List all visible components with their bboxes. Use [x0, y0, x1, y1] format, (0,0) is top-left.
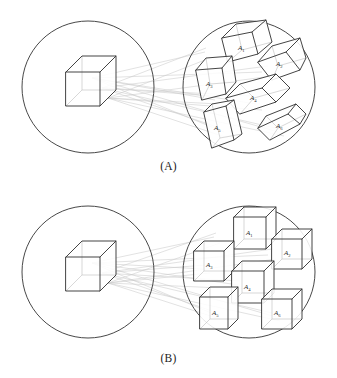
panel-b: A1 A2 A3	[0, 189, 337, 378]
panel-a-graphic: A1 A2 A3	[0, 0, 337, 166]
panel-b-graphic: A1 A2 A3	[0, 189, 337, 355]
target-cube-b2: A2	[272, 229, 312, 269]
target-cube-b3: A3	[194, 241, 234, 281]
source-cube-b	[66, 241, 116, 291]
panel-b-caption: (B)	[0, 352, 337, 364]
panel-a: A1 A2 A3	[0, 0, 337, 189]
source-cube-a	[66, 56, 116, 106]
target-cube-b1: A1	[234, 207, 276, 249]
figure-container: A1 A2 A3	[0, 0, 337, 378]
target-cube-b6: A6	[262, 289, 302, 329]
panel-a-caption: (A)	[0, 160, 337, 172]
target-cube-a6: A6	[258, 104, 306, 140]
target-cube-b5: A5	[200, 287, 238, 329]
